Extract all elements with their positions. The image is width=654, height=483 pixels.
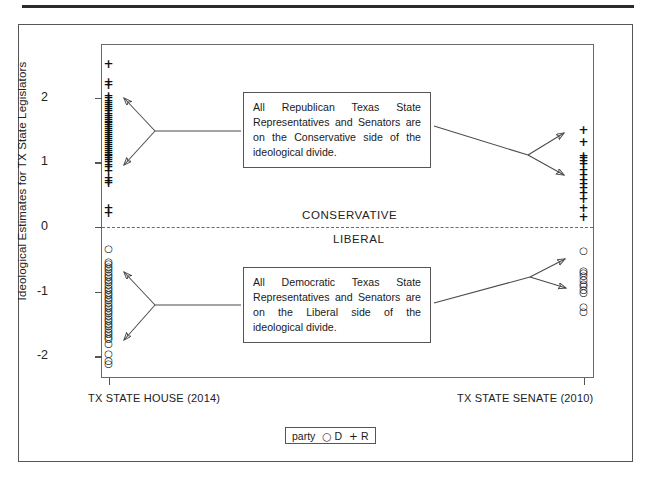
data-point-democrat: ○ xyxy=(104,357,113,368)
callout-republican: All Republican Texas State Representativ… xyxy=(243,92,431,168)
legend-key-d[interactable]: ○ D xyxy=(322,430,342,442)
legend-label-d: D xyxy=(335,430,343,442)
data-point-democrat: ○ xyxy=(579,306,588,317)
data-point-democrat: ○ xyxy=(579,245,588,256)
y-tick-mark xyxy=(95,292,102,293)
x-axis-label-senate: TX STATE SENATE (2010) xyxy=(457,392,593,404)
data-point-democrat: ○ xyxy=(579,286,588,297)
y-axis-title: Ideological Estimates for TX State Legis… xyxy=(16,0,28,371)
x-tick-mark xyxy=(584,378,585,385)
zero-reference-line xyxy=(102,227,593,228)
data-point-republican: + xyxy=(103,178,113,189)
y-tick-mark xyxy=(95,227,102,228)
y-tick-label: -1 xyxy=(8,284,48,298)
legend[interactable]: party ○ D + R xyxy=(285,427,376,444)
y-tick-mark xyxy=(95,356,102,357)
y-tick-mark xyxy=(95,162,102,163)
data-point-republican: + xyxy=(578,136,588,147)
plus-marker-icon: + xyxy=(349,430,358,442)
x-axis-label-house: TX STATE HOUSE (2014) xyxy=(88,392,220,404)
y-tick-label: 1 xyxy=(8,154,48,168)
circle-marker-icon: ○ xyxy=(322,430,331,442)
data-point-democrat: ○ xyxy=(104,243,113,254)
data-point-republican: + xyxy=(103,207,113,218)
x-tick-mark xyxy=(109,378,110,385)
data-point-republican: + xyxy=(578,211,588,222)
y-tick-mark xyxy=(95,98,102,99)
page-top-rule xyxy=(22,5,634,8)
y-tick-label: -2 xyxy=(8,348,48,362)
data-point-republican: + xyxy=(103,58,113,69)
conservative-label: CONSERVATIVE xyxy=(302,209,397,221)
callout-democrat: All Democratic Texas State Representativ… xyxy=(243,267,431,343)
legend-title: party xyxy=(292,430,315,442)
liberal-label: LIBERAL xyxy=(333,233,385,245)
legend-key-r[interactable]: + R xyxy=(349,430,368,442)
legend-label-r: R xyxy=(361,430,369,442)
y-tick-label: 2 xyxy=(8,90,48,104)
y-tick-label: 0 xyxy=(8,219,48,233)
